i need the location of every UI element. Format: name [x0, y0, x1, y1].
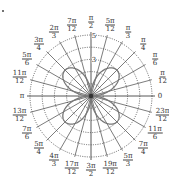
angle-fraction: 2π3 — [49, 24, 59, 39]
angle-fraction: 5π4 — [34, 141, 44, 156]
angle-label: π3 — [125, 24, 131, 39]
angle-spoke — [91, 96, 152, 112]
angle-denominator: 3 — [52, 161, 56, 168]
angle-label: 5π4 — [34, 141, 44, 156]
angle-fraction: π3 — [125, 24, 131, 39]
angle-denominator: 6 — [153, 60, 157, 67]
angle-fraction: 5π6 — [22, 52, 32, 67]
angle-denominator: 4 — [141, 149, 145, 156]
angle-label: π6 — [152, 52, 158, 67]
angle-denominator: 4 — [141, 44, 145, 51]
origin-point — [89, 94, 93, 98]
angle-denominator: 12 — [158, 116, 167, 123]
angle-label: π4 — [140, 36, 146, 51]
angle-label: 2π3 — [49, 24, 59, 39]
angle-spoke — [46, 51, 91, 96]
angle-denominator: 12 — [67, 168, 76, 175]
angle-fraction: 11π6 — [148, 126, 163, 141]
angle-denominator: 12 — [106, 25, 115, 32]
angle-fraction: π6 — [152, 52, 158, 67]
angle-fraction: 3π4 — [34, 36, 44, 51]
angle-label: 3π4 — [34, 36, 44, 51]
angle-denominator: 2 — [89, 171, 93, 178]
angle-label: 19π12 — [103, 160, 118, 175]
angle-spoke — [75, 35, 91, 96]
angle-label: 5π3 — [123, 153, 133, 168]
angle-fraction: 5π3 — [123, 153, 133, 168]
angle-fraction: 7π6 — [22, 126, 32, 141]
angle-denominator: 12 — [15, 77, 24, 84]
angle-denominator: 12 — [15, 116, 24, 123]
angle-label: 5π12 — [105, 17, 115, 32]
radial-label: 3 — [92, 57, 96, 64]
angle-denominator: 6 — [25, 60, 29, 67]
angle-denominator: 3 — [126, 161, 130, 168]
angle-spoke — [91, 51, 136, 96]
angle-label: π12 — [158, 69, 167, 84]
angle-label: 23π12 — [155, 108, 169, 123]
angle-fraction: 4π3 — [49, 153, 59, 168]
angle-denominator: 3 — [52, 32, 56, 39]
angle-denominator: 12 — [106, 168, 115, 175]
angle-denominator: 4 — [36, 44, 40, 51]
angle-label: 5π6 — [22, 52, 32, 67]
angle-label: 13π12 — [12, 108, 27, 123]
angle-spoke — [46, 96, 91, 141]
angle-spoke — [30, 96, 91, 112]
angle-label: 11π6 — [148, 126, 163, 141]
angle-value: π — [20, 92, 25, 100]
angle-fraction: 7π4 — [138, 141, 148, 156]
angle-fraction: π12 — [158, 69, 167, 84]
angle-fraction: 23π12 — [155, 108, 169, 123]
angle-fraction: 17π12 — [65, 160, 80, 175]
angle-label: 7π4 — [138, 141, 148, 156]
angle-denominator: 2 — [89, 23, 93, 30]
angle-spoke — [91, 35, 107, 96]
angle-denominator: 3 — [126, 32, 130, 39]
angle-label: π — [20, 93, 25, 100]
angle-fraction: π4 — [140, 36, 146, 51]
angle-label: 17π12 — [65, 160, 80, 175]
angle-label: 11π12 — [12, 69, 27, 84]
polar-graph: 530π12π6π4π35π12π27π122π33π45π611π12π13π… — [0, 0, 169, 185]
angle-label: 7π12 — [67, 17, 77, 32]
polar-grid — [0, 0, 169, 185]
angle-denominator: 12 — [67, 25, 76, 32]
angle-fraction: 5π12 — [105, 17, 115, 32]
angle-value: 0 — [158, 92, 162, 100]
angle-label: 3π2 — [86, 163, 96, 178]
angle-spoke — [91, 96, 136, 141]
angle-label: π2 — [88, 15, 94, 30]
angle-fraction: 11π12 — [12, 69, 27, 84]
angle-label: 4π3 — [49, 153, 59, 168]
angle-fraction: 19π12 — [103, 160, 118, 175]
angle-label: 0 — [158, 93, 162, 100]
angle-fraction: 3π2 — [86, 163, 96, 178]
radial-label: 5 — [92, 33, 96, 40]
angle-fraction: π2 — [88, 15, 94, 30]
angle-denominator: 6 — [25, 134, 29, 141]
angle-denominator: 6 — [153, 134, 157, 141]
angle-denominator: 4 — [36, 149, 40, 156]
angle-fraction: 7π12 — [67, 17, 77, 32]
angle-fraction: 13π12 — [12, 108, 27, 123]
angle-denominator: 12 — [158, 77, 167, 84]
angle-label: 7π6 — [22, 126, 32, 141]
